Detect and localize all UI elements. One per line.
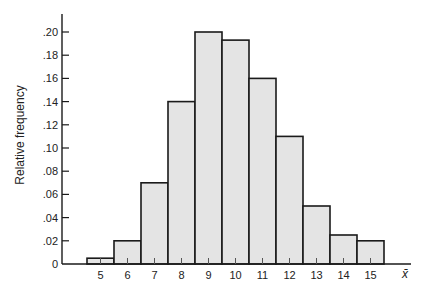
x-tick-label: 7 (151, 269, 157, 281)
y-tick-label: 0 (52, 258, 58, 270)
y-tick-label: .12 (43, 119, 58, 131)
histogram-bar-11 (249, 78, 276, 264)
x-tick-label: 11 (257, 269, 268, 281)
y-tick-label: .02 (43, 235, 58, 247)
y-tick-label: .04 (43, 212, 58, 224)
x-axis-label: x̄ (401, 267, 409, 281)
x-tick-label: 9 (205, 269, 211, 281)
y-ticks-group: 0.02.04.06.08.10.12.14.16.18.20 (43, 26, 69, 270)
y-axis-label: Relative frequency (13, 85, 27, 184)
x-tick-label: 6 (124, 269, 130, 281)
x-tick-label: 13 (310, 269, 322, 281)
histogram-bar-7 (141, 183, 168, 264)
y-tick-label: .18 (43, 49, 58, 61)
chart-canvas: 0.02.04.06.08.10.12.14.16.18.20 56789101… (0, 0, 431, 293)
histogram-bar-12 (276, 136, 303, 264)
x-tick-label: 5 (97, 269, 103, 281)
histogram-bar-10 (222, 40, 249, 264)
x-tick-label: 10 (229, 269, 241, 281)
x-tick-label: 15 (364, 269, 376, 281)
y-tick-label: .14 (43, 96, 58, 108)
y-tick-label: .06 (43, 188, 58, 200)
y-tick-label: .08 (43, 165, 58, 177)
y-tick-label: .20 (43, 26, 58, 38)
x-tick-label: 14 (337, 269, 349, 281)
y-tick-label: .10 (43, 142, 58, 154)
histogram-chart: 0.02.04.06.08.10.12.14.16.18.20 56789101… (0, 0, 431, 293)
x-tick-label: 8 (178, 269, 184, 281)
histogram-bar-8 (168, 102, 195, 264)
histogram-bar-9 (195, 32, 222, 264)
y-tick-label: .16 (43, 72, 58, 84)
histogram-bar-13 (303, 206, 330, 264)
x-tick-label: 12 (283, 269, 295, 281)
bars-group (87, 32, 384, 264)
